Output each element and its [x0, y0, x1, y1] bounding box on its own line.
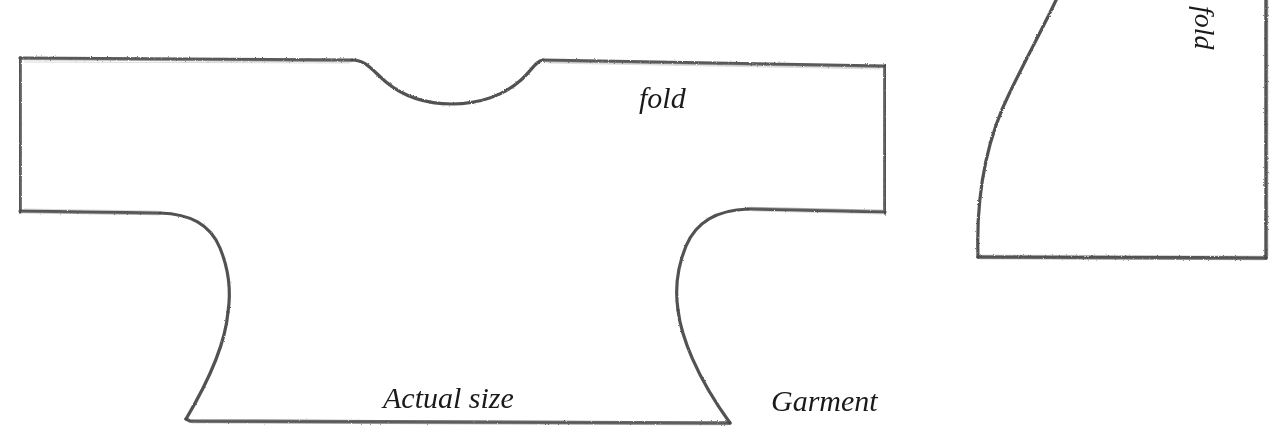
right-side-seam [678, 310, 730, 423]
fold-label-main: fold [639, 83, 686, 113]
pencil-texture-overlay [24, 62, 1262, 422]
quarter-piece-arc [978, 0, 1058, 257]
pattern-sheet: fold Actual size Garment fold [0, 0, 1284, 430]
pattern-drawing [0, 0, 1284, 430]
fold-label-right: fold [1190, 6, 1218, 50]
left-underarm-curve [160, 213, 229, 312]
quarter-circle-piece-outline [978, 0, 1268, 260]
left-side-seam [186, 312, 228, 419]
actual-size-label: Actual size [383, 383, 514, 413]
garment-outline [20, 58, 885, 425]
right-underarm-curve [677, 209, 748, 310]
garment-label: Garment [771, 386, 878, 416]
neckline-curve [352, 60, 543, 104]
